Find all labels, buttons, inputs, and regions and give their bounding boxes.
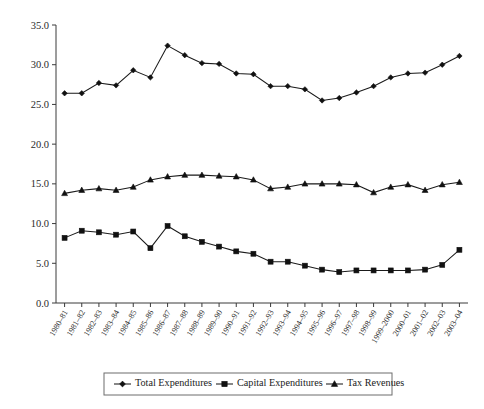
data-point-diamond <box>354 90 359 95</box>
data-point-square <box>131 229 136 234</box>
data-point-diamond <box>422 70 427 75</box>
data-point-square <box>320 267 325 272</box>
y-axis-tick-label: 30.0 <box>31 59 49 70</box>
chart-canvas: 0.05.010.015.020.025.030.035.01980–81198… <box>0 0 484 409</box>
data-point-triangle <box>96 186 102 191</box>
data-point-square <box>457 247 462 252</box>
data-point-square <box>302 263 307 268</box>
data-point-diamond <box>440 62 445 67</box>
data-point-square <box>440 262 445 267</box>
chart-legend: Total ExpendituresCapital ExpendituresTa… <box>104 373 404 395</box>
data-point-diamond <box>405 71 410 76</box>
series-total-expenditures <box>62 43 462 103</box>
data-point-square <box>423 267 428 272</box>
data-point-square <box>114 232 119 237</box>
y-axis-tick-label: 10.0 <box>31 218 49 229</box>
data-point-diamond <box>371 83 376 88</box>
line-chart: 0.05.010.015.020.025.030.035.01980–81198… <box>0 0 484 409</box>
data-point-square <box>388 268 393 273</box>
data-point-square <box>165 223 170 228</box>
y-axis-tick-label: 35.0 <box>31 20 49 31</box>
data-point-square <box>182 234 187 239</box>
data-point-diamond <box>302 87 307 92</box>
y-axis-tick-label: 15.0 <box>31 178 49 189</box>
data-point-square <box>371 268 376 273</box>
data-point-diamond <box>319 98 324 103</box>
data-point-square <box>251 251 256 256</box>
data-point-square <box>222 381 227 386</box>
data-point-diamond <box>457 53 462 58</box>
series-tax-revenues <box>62 172 463 196</box>
data-point-square <box>199 239 204 244</box>
y-axis-tick-label: 20.0 <box>31 139 49 150</box>
series-line <box>65 226 460 272</box>
data-point-square <box>405 268 410 273</box>
data-point-diamond <box>199 60 204 65</box>
series-line <box>65 46 460 101</box>
y-axis-tick-label: 0.0 <box>36 298 49 309</box>
y-axis-tick-label: 5.0 <box>36 258 49 269</box>
data-point-diamond <box>62 91 67 96</box>
data-point-diamond <box>388 75 393 80</box>
series-capital-expenditures <box>62 223 462 274</box>
data-point-diamond <box>96 80 101 85</box>
data-point-square <box>217 244 222 249</box>
data-point-square <box>148 246 153 251</box>
data-point-square <box>268 259 273 264</box>
data-point-square <box>234 249 239 254</box>
legend-item-label: Tax Revenues <box>347 377 404 388</box>
legend-item-label: Total Expenditures <box>135 377 212 388</box>
data-point-square <box>96 230 101 235</box>
series-line <box>65 175 460 193</box>
data-point-triangle <box>405 182 411 187</box>
data-point-diamond <box>79 91 84 96</box>
data-point-diamond <box>285 83 290 88</box>
data-point-square <box>62 235 67 240</box>
data-point-diamond <box>165 43 170 48</box>
data-point-square <box>354 268 359 273</box>
data-point-square <box>285 259 290 264</box>
data-point-square <box>337 270 342 275</box>
data-point-triangle <box>456 179 462 184</box>
legend-item-label: Capital Expenditures <box>237 377 323 388</box>
data-point-square <box>79 228 84 233</box>
data-point-diamond <box>216 61 221 66</box>
y-axis-tick-label: 25.0 <box>31 99 49 110</box>
data-point-diamond <box>148 75 153 80</box>
data-point-diamond <box>337 95 342 100</box>
data-point-diamond <box>182 52 187 57</box>
data-point-diamond <box>234 71 239 76</box>
